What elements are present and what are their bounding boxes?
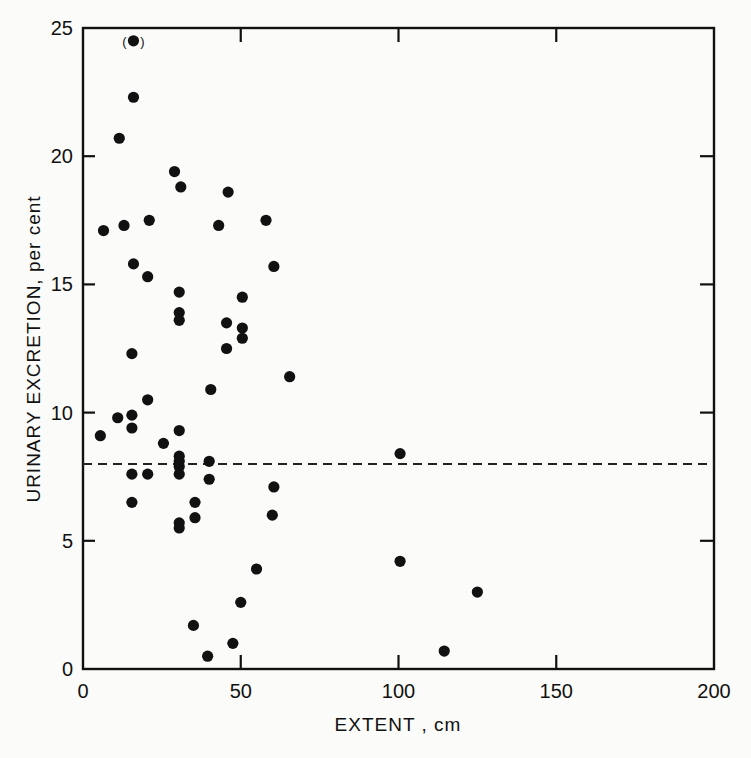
- data-point: [189, 512, 200, 523]
- data-point: [268, 261, 279, 272]
- data-point: [118, 220, 129, 231]
- data-point: [251, 563, 262, 574]
- data-point: [205, 384, 216, 395]
- data-point: [174, 469, 185, 480]
- data-point: [95, 430, 106, 441]
- data-point: [174, 425, 185, 436]
- data-points: [95, 35, 483, 662]
- data-point: [175, 181, 186, 192]
- data-point: [394, 556, 405, 567]
- outlier-paren-left: (: [122, 34, 127, 49]
- y-tick-label: 5: [62, 530, 73, 552]
- data-point: [112, 412, 123, 423]
- data-point: [237, 322, 248, 333]
- axis-ticks: 0501001502000510152025: [51, 17, 731, 702]
- x-tick-label: 100: [382, 680, 415, 702]
- data-point: [260, 215, 271, 226]
- data-point: [142, 271, 153, 282]
- y-axis-label: URINARY EXCRETION, per cent: [23, 195, 44, 502]
- data-point: [202, 651, 213, 662]
- x-tick-label: 150: [540, 680, 573, 702]
- data-point: [439, 645, 450, 656]
- data-point: [142, 394, 153, 405]
- data-point: [472, 586, 483, 597]
- y-tick-label: 10: [51, 402, 73, 424]
- data-point: [128, 35, 139, 46]
- data-point: [221, 343, 232, 354]
- data-point: [174, 315, 185, 326]
- data-point: [142, 469, 153, 480]
- data-point: [213, 220, 224, 231]
- data-point: [284, 371, 295, 382]
- y-tick-label: 20: [51, 145, 73, 167]
- y-tick-label: 0: [62, 658, 73, 680]
- data-point: [126, 348, 137, 359]
- data-point: [128, 92, 139, 103]
- data-point: [227, 638, 238, 649]
- data-point: [126, 422, 137, 433]
- x-tick-label: 50: [230, 680, 252, 702]
- data-point: [158, 438, 169, 449]
- data-point: [126, 469, 137, 480]
- x-axis-label: EXTENT , cm: [335, 714, 462, 735]
- data-point: [267, 510, 278, 521]
- data-point: [174, 286, 185, 297]
- data-point: [221, 317, 232, 328]
- plot-frame: [83, 28, 714, 669]
- data-point: [144, 215, 155, 226]
- scatter-chart: 0501001502000510152025 () EXTENT , cm UR…: [0, 0, 751, 758]
- data-point: [174, 522, 185, 533]
- data-point: [98, 225, 109, 236]
- data-point: [268, 481, 279, 492]
- data-point: [237, 292, 248, 303]
- data-point: [204, 456, 215, 467]
- data-point: [169, 166, 180, 177]
- data-point: [237, 333, 248, 344]
- y-tick-label: 15: [51, 273, 73, 295]
- x-tick-label: 200: [697, 680, 730, 702]
- data-point: [204, 474, 215, 485]
- x-tick-label: 0: [77, 680, 88, 702]
- data-point: [114, 133, 125, 144]
- data-point: [128, 258, 139, 269]
- plot-border: [83, 28, 714, 669]
- data-point: [223, 186, 234, 197]
- data-point: [188, 620, 199, 631]
- data-point: [126, 410, 137, 421]
- outlier-paren-right: ): [140, 34, 144, 49]
- data-point: [235, 597, 246, 608]
- data-point: [126, 497, 137, 508]
- data-point: [189, 497, 200, 508]
- data-point: [394, 448, 405, 459]
- y-tick-label: 25: [51, 17, 73, 39]
